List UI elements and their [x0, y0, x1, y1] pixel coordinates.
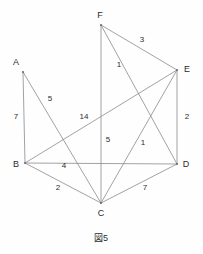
edge-weight-b-c: 2 — [56, 184, 60, 192]
vertex-label-b: B — [13, 160, 19, 169]
vertex-label-c: C — [98, 209, 105, 218]
vertex-label-a: A — [13, 58, 19, 67]
graph-vertex-e — [176, 69, 178, 71]
graph-vertex-b — [24, 162, 26, 164]
vertex-label-f: F — [97, 11, 103, 20]
vertex-label-d: D — [183, 160, 190, 169]
graph-edge-e-f — [101, 25, 177, 70]
edge-weight-c-e: 1 — [141, 139, 145, 147]
edge-weight-d-f: 1 — [117, 61, 121, 69]
graph-vertex-d — [176, 163, 178, 165]
edge-weight-a-b: 7 — [14, 113, 18, 121]
graph-edge-a-b — [23, 72, 25, 163]
figure-container: ABCDEF 752414715213 図5 — [0, 0, 203, 254]
edge-weight-e-f: 3 — [140, 36, 144, 44]
graph-vertex-f — [100, 24, 102, 26]
edge-weight-b-d: 4 — [62, 162, 66, 170]
edge-weight-a-c: 5 — [48, 95, 52, 103]
graph-vertex-a — [22, 71, 24, 73]
edge-weight-c-f: 5 — [106, 136, 110, 144]
graph-edge-d-f — [101, 25, 177, 164]
edge-weight-d-e: 2 — [185, 113, 189, 121]
graph-vertex-c — [100, 202, 102, 204]
vertex-label-e: E — [184, 65, 190, 74]
graph-edge-a-c — [23, 72, 101, 203]
edge-weight-b-e: 14 — [80, 113, 89, 121]
graph-edge-c-e — [101, 70, 177, 203]
figure-caption: 図5 — [94, 234, 108, 243]
vertex-layer — [22, 24, 178, 204]
edge-layer — [23, 25, 177, 203]
edge-weight-c-d: 7 — [143, 184, 147, 192]
